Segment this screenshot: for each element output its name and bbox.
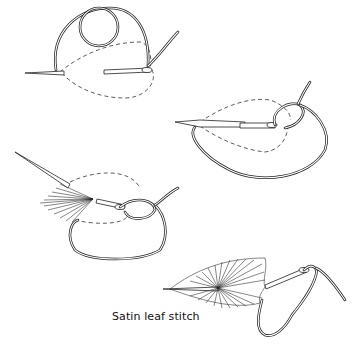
- step-1-illustration: [25, 8, 178, 98]
- needle-icon: [175, 120, 245, 127]
- partial-leaf: [40, 184, 93, 222]
- step-2-illustration: [175, 82, 327, 178]
- satin-leaf-stitch-diagram: Satin leaf stitch: [0, 0, 355, 348]
- completed-leaf: [170, 258, 266, 308]
- figure-caption: Satin leaf stitch: [112, 310, 200, 323]
- step-3-illustration: [15, 152, 178, 259]
- needle-icon: [15, 152, 70, 188]
- needle-icon: [25, 71, 64, 75]
- step-4-illustration: [163, 258, 345, 336]
